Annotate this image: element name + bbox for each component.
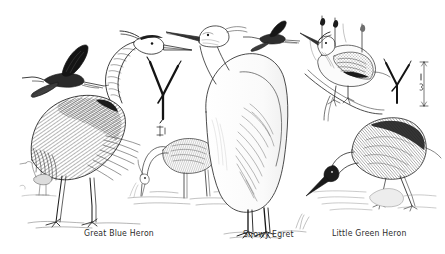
caption-great-blue-heron: Great Blue Heron bbox=[84, 229, 154, 238]
plate-artwork bbox=[0, 0, 445, 254]
illustration-plate: Great Blue Heron Snowy Egret Little Gree… bbox=[0, 0, 445, 254]
caption-little-green-heron: Little Green Heron bbox=[332, 229, 407, 238]
caption-snowy-egret: Snowy Egret bbox=[243, 230, 294, 239]
